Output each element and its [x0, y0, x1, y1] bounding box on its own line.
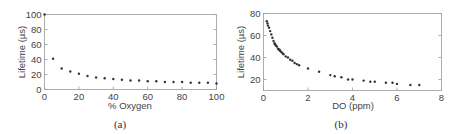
data-point: [276, 45, 278, 47]
y-tick-label: 20: [250, 74, 261, 85]
data-point: [287, 56, 289, 58]
x-tick-label: 0: [261, 92, 266, 103]
data-point: [396, 83, 398, 85]
data-point: [369, 81, 371, 83]
data-point: [340, 76, 342, 78]
data-point: [362, 79, 364, 81]
x-tick-label: 2: [305, 92, 310, 103]
data-point: [95, 76, 97, 78]
y-tick-label: 60: [31, 39, 42, 50]
data-point: [147, 80, 149, 82]
data-point: [215, 82, 217, 84]
data-point: [293, 62, 295, 64]
data-point: [329, 74, 331, 76]
x-axis-label: DO (ppm): [332, 100, 374, 111]
data-point: [418, 84, 420, 86]
data-point: [409, 84, 411, 86]
data-point: [267, 24, 269, 26]
data-point: [138, 79, 140, 81]
x-axis-label: % Oxygen: [108, 100, 152, 111]
data-point: [78, 73, 80, 75]
data-point: [385, 82, 387, 84]
data-point: [307, 67, 309, 69]
y-tick-label: 80: [31, 24, 42, 35]
data-point: [86, 75, 88, 77]
data-point: [207, 82, 209, 84]
data-point: [282, 53, 284, 55]
data-point: [181, 81, 183, 83]
data-point: [104, 77, 106, 79]
data-point: [129, 79, 131, 81]
x-tick-label: 0: [42, 91, 47, 102]
data-point: [266, 20, 268, 22]
x-tick-label: 6: [394, 92, 399, 103]
data-point: [272, 40, 274, 42]
data-point: [271, 37, 273, 39]
y-axis-ticks: 20406080: [250, 8, 442, 85]
data-point: [198, 82, 200, 84]
data-point: [291, 60, 293, 62]
chart-panel-a: 020406080100 020406080100 % Oxygen Lifet…: [0, 0, 231, 134]
chart-panel-b: 20406080 02468 DO (ppm) Lifetime (µs) (b…: [231, 0, 462, 134]
data-points: [266, 20, 421, 86]
y-tick-label: 80: [250, 8, 261, 19]
scatter-plot-oxygen: 020406080100 020406080100 % Oxygen Lifet…: [0, 0, 231, 134]
data-point: [318, 71, 320, 73]
data-point: [285, 55, 287, 57]
data-point: [121, 79, 123, 81]
x-tick-label: 80: [177, 91, 188, 102]
data-point: [43, 13, 45, 15]
y-axis-ticks: 020406080100: [26, 9, 217, 95]
data-point: [374, 81, 376, 83]
data-point: [61, 67, 63, 69]
panel-caption: (a): [114, 118, 127, 131]
x-tick-label: 8: [439, 92, 444, 103]
y-axis-label: Lifetime (µs): [235, 26, 246, 78]
data-point: [269, 30, 271, 32]
y-tick-label: 0: [36, 84, 41, 95]
y-tick-label: 100: [26, 9, 42, 20]
data-point: [298, 64, 300, 66]
y-tick-label: 40: [31, 54, 42, 65]
data-point: [268, 27, 270, 29]
data-point: [334, 75, 336, 77]
data-point: [172, 81, 174, 83]
x-tick-label: 20: [74, 91, 85, 102]
data-point: [347, 78, 349, 80]
plot-frame: [45, 15, 217, 90]
data-point: [270, 33, 272, 35]
data-point: [155, 80, 157, 82]
data-point: [351, 78, 353, 80]
data-point: [266, 22, 268, 24]
data-point: [112, 78, 114, 80]
data-point: [190, 82, 192, 84]
x-tick-label: 100: [209, 91, 225, 102]
scatter-plot-do: 20406080 02468 DO (ppm) Lifetime (µs) (b…: [231, 0, 462, 134]
panel-caption: (b): [335, 118, 348, 131]
data-point: [391, 82, 393, 84]
data-point: [289, 59, 291, 61]
data-points: [43, 13, 217, 84]
data-point: [164, 81, 166, 83]
y-tick-label: 60: [250, 30, 261, 41]
y-axis-label: Lifetime (µs): [16, 26, 27, 78]
data-point: [52, 58, 54, 60]
data-point: [69, 70, 71, 72]
y-tick-label: 40: [250, 52, 261, 63]
y-tick-label: 20: [31, 69, 42, 80]
data-point: [296, 63, 298, 65]
